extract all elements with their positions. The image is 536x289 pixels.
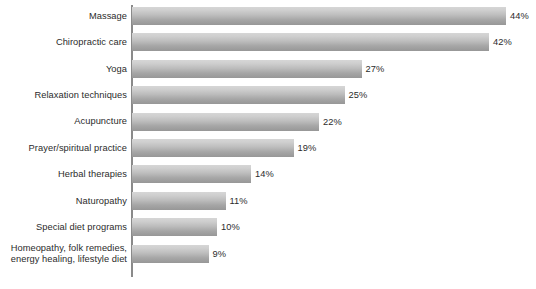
bar-category-label-line: Acupuncture (74, 116, 127, 127)
bar-row: Acupuncture22% (0, 113, 536, 131)
bar-category-label: Homeopathy, folk remedies,energy healing… (3, 245, 127, 263)
bar-rect (132, 7, 506, 25)
bar-row: Naturopathy11% (0, 192, 536, 210)
bar-category-label: Massage (3, 7, 127, 25)
bar-row: Herbal therapies14% (0, 165, 536, 183)
bar-value-label: 27% (362, 60, 385, 78)
bar-value-label: 14% (251, 165, 274, 183)
bar-rect (132, 165, 251, 183)
bar-category-label-line: Yoga (106, 64, 127, 75)
bar-category-label: Special diet programs (3, 218, 127, 236)
bar-category-label: Relaxation techniques (3, 86, 127, 104)
bar-category-label: Chiropractic care (3, 33, 127, 51)
bar-category-label-line: Relaxation techniques (34, 90, 127, 101)
bar-category-label-line: Naturopathy (76, 196, 127, 207)
bar-rect (132, 86, 345, 104)
bar-value-label: 19% (294, 139, 317, 157)
bar-row: Massage44% (0, 7, 536, 25)
bar-rect (132, 60, 362, 78)
bar-value-label: 9% (209, 245, 227, 263)
bar-category-label-line: Chiropractic care (56, 37, 127, 48)
bar-category-label-line: Special diet programs (36, 222, 127, 233)
bar-rect (132, 113, 319, 131)
bar-value-label: 22% (319, 113, 342, 131)
bar-category-label-line: Homeopathy, folk remedies, (11, 243, 127, 254)
bar-category-label: Herbal therapies (3, 165, 127, 183)
bar-category-label: Yoga (3, 60, 127, 78)
bar-row: Homeopathy, folk remedies,energy healing… (0, 245, 536, 263)
plot-area: Massage44%Chiropractic care42%Yoga27%Rel… (0, 0, 536, 289)
bar-category-label: Acupuncture (3, 113, 127, 131)
bar-row: Relaxation techniques25% (0, 86, 536, 104)
bar-category-label-line: energy healing, lifestyle diet (11, 254, 127, 265)
bar-rect (132, 218, 217, 236)
bar-value-label: 10% (217, 218, 240, 236)
bar-row: Special diet programs10% (0, 218, 536, 236)
bar-chart: Massage44%Chiropractic care42%Yoga27%Rel… (0, 0, 536, 289)
bar-category-label-line: Massage (89, 11, 127, 22)
bar-rect (132, 192, 226, 210)
bar-row: Prayer/spiritual practice19% (0, 139, 536, 157)
bar-rect (132, 245, 209, 263)
bar-rect (132, 139, 294, 157)
bar-category-label: Prayer/spiritual practice (3, 139, 127, 157)
bar-value-label: 25% (345, 86, 368, 104)
bar-value-label: 11% (226, 192, 248, 210)
bar-category-label-line: Herbal therapies (58, 169, 127, 180)
bar-value-label: 42% (489, 33, 512, 51)
bar-row: Chiropractic care42% (0, 33, 536, 51)
bar-rect (132, 33, 489, 51)
bar-value-label: 44% (506, 7, 529, 25)
bar-category-label-line: Prayer/spiritual practice (29, 143, 127, 154)
bar-category-label: Naturopathy (3, 192, 127, 210)
bar-row: Yoga27% (0, 60, 536, 78)
